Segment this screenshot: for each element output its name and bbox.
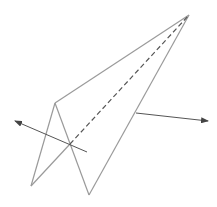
plane-edge-right [89, 15, 189, 195]
plane-edge-top [55, 15, 189, 103]
plane-edge-left-back [55, 103, 89, 195]
dihedral-diagram [0, 0, 217, 207]
normal-vector-right [136, 113, 208, 121]
fold-line-dashed [70, 15, 189, 144]
